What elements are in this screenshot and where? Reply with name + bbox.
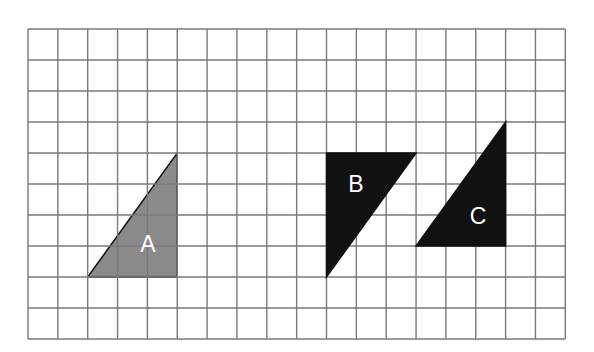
label-a: A	[140, 231, 156, 257]
grid-diagram: A B C	[0, 0, 594, 352]
label-c: C	[470, 203, 487, 229]
label-b: B	[348, 171, 363, 197]
